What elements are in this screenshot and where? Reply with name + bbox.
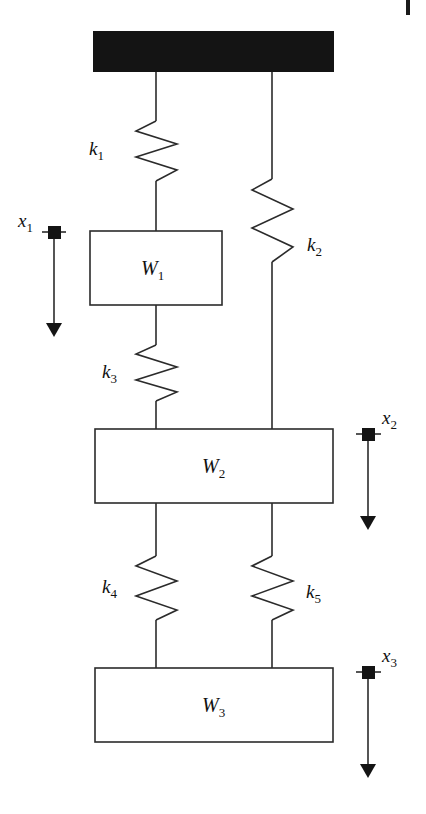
x1-arrow-head-icon — [46, 323, 62, 337]
x3-anchor-marker-icon — [362, 666, 375, 679]
mass-spring-diagram: k1 k2 W1 x1 k3 W2 x2 k4 — [0, 0, 426, 814]
fixed-support-bar — [93, 31, 334, 72]
displacement-x3-label: x3 — [381, 645, 397, 670]
page-edge-tick-icon — [406, 0, 410, 15]
x1-anchor-marker-icon — [48, 226, 61, 239]
spring-k3-coil — [136, 345, 177, 401]
spring-k2-coil — [252, 179, 293, 262]
x3-arrow-head-icon — [360, 764, 376, 778]
displacement-x2-label: x2 — [381, 407, 397, 432]
spring-k5-coil — [252, 556, 293, 620]
spring-k5-label: k5 — [306, 581, 321, 606]
spring-k2-label: k2 — [307, 234, 322, 259]
x2-anchor-marker-icon — [362, 428, 375, 441]
spring-k1-coil — [136, 121, 177, 181]
x2-arrow-head-icon — [360, 516, 376, 530]
spring-k4-coil — [136, 556, 177, 620]
spring-k3-label: k3 — [102, 361, 117, 386]
spring-k4-label: k4 — [102, 576, 117, 601]
spring-k1-label: k1 — [89, 138, 104, 163]
mass-spring-schematic: k1 k2 W1 x1 k3 W2 x2 k4 — [0, 0, 426, 814]
displacement-x1-label: x1 — [17, 210, 33, 235]
